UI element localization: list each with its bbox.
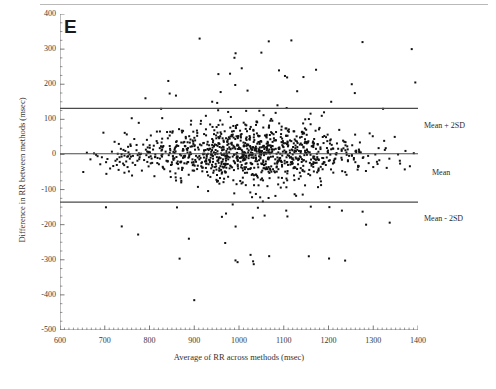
y-tick-label: 300 (30, 45, 56, 53)
y-tick-label: 200 (30, 80, 56, 88)
y-tick-label: 0 (30, 150, 56, 158)
y-tick-label: -100 (30, 186, 56, 194)
x-tick-label: 900 (174, 336, 214, 345)
top-rule-divider (40, 4, 488, 5)
figure-panel: E 4003002001000-100-200-300-400-500 6007… (0, 0, 496, 389)
x-axis-tick-labels: 60070080090010001100120013001400 (60, 336, 418, 350)
x-tick-label: 1000 (219, 336, 259, 345)
y-tick-label: 400 (30, 10, 56, 18)
y-tick-label: -300 (30, 256, 56, 264)
x-tick-label: 1200 (309, 336, 349, 345)
y-tick-label: -400 (30, 291, 56, 299)
x-tick-label: 1300 (353, 336, 393, 345)
reference-line-lower-label: Mean - 2SD (424, 214, 463, 223)
y-tick-label: -200 (30, 221, 56, 229)
scatter-plot-canvas (60, 14, 418, 330)
plot-area (60, 14, 418, 330)
x-tick-label: 1100 (264, 336, 304, 345)
x-axis-title: Average of RR across methods (msec) (60, 352, 418, 362)
reference-line-upper-label: Mean + 2SD (424, 121, 465, 130)
reference-line-mean-label: Mean (432, 168, 450, 177)
y-axis-title: Difference in RR between methods (msec) (17, 50, 27, 290)
x-tick-label: 600 (40, 336, 80, 345)
y-tick-label: -500 (30, 326, 56, 334)
y-axis-tick-labels: 4003002001000-100-200-300-400-500 (26, 14, 56, 330)
x-tick-label: 800 (130, 336, 170, 345)
x-tick-label: 1400 (398, 336, 438, 345)
y-tick-label: 100 (30, 115, 56, 123)
x-tick-label: 700 (85, 336, 125, 345)
